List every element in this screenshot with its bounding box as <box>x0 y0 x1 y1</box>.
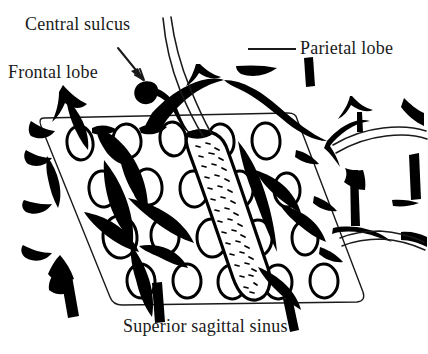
right-edge-vein-b <box>409 153 421 200</box>
label-parietal-lobe: Parietal lobe <box>300 38 393 59</box>
label-frontal-lobe: Frontal lobe <box>8 62 98 83</box>
label-superior-sagittal-sinus: Superior sagittal sinus <box>123 316 288 337</box>
label-central-sulcus: Central sulcus <box>25 14 130 35</box>
anatomy-figure: Central sulcus Frontal lobe Parietal lob… <box>0 0 428 354</box>
right-vertical-vein <box>357 112 363 132</box>
